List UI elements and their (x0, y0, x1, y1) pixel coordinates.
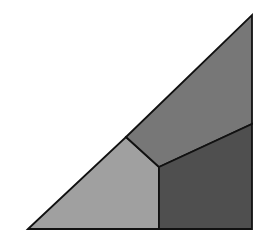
left-region (28, 137, 159, 229)
triangle-diagram (0, 0, 276, 238)
diagram-canvas (0, 0, 276, 238)
